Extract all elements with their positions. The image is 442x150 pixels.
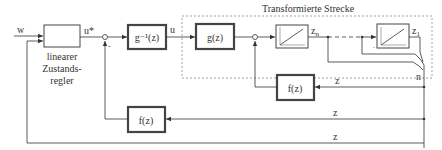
signal-u-star: u* xyxy=(84,25,94,36)
signal-z-1: z1 xyxy=(412,25,420,38)
linear-state-controller-block xyxy=(44,25,80,47)
block-diagram: Transformierte Strecke w linearer Zustan… xyxy=(0,0,442,150)
signal-z-bottom: z xyxy=(333,131,338,142)
controller-label-1: linearer xyxy=(47,51,78,62)
signal-z-mid: z xyxy=(333,107,338,118)
summing-junction-2 xyxy=(253,35,258,40)
signal-u: u xyxy=(170,24,175,35)
controller-label-3: regler xyxy=(50,75,74,86)
sum2-dot: . xyxy=(373,41,375,50)
signal-n: n xyxy=(416,71,421,82)
summing-junction-1 xyxy=(103,35,108,40)
f-inner-label: f(z) xyxy=(288,83,302,95)
f-outer-label: f(z) xyxy=(139,115,153,127)
signal-z-n: zn xyxy=(311,25,319,38)
sum1-minus-sign: - xyxy=(108,42,111,51)
transformed-plant-title: Transformierte Strecke xyxy=(262,3,355,14)
controller-label-2: Zustands- xyxy=(42,63,81,74)
g-inverse-label: g⁻¹(z) xyxy=(135,32,159,44)
signal-z-inner: z xyxy=(335,75,340,86)
g-label: g(z) xyxy=(207,32,223,44)
signal-w: w xyxy=(17,24,25,35)
